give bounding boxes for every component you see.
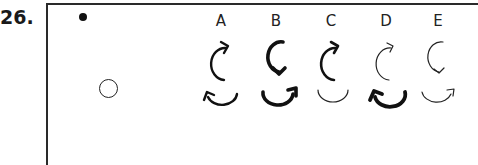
question-number: 26.: [0, 6, 34, 28]
option-a-arrows-icon[interactable]: [200, 34, 250, 114]
empty-circle-icon: [99, 79, 118, 98]
option-b-arrows-icon[interactable]: [255, 34, 305, 114]
option-c-arrows-icon[interactable]: [310, 34, 360, 114]
option-label-d[interactable]: D: [376, 12, 396, 30]
option-label-e[interactable]: E: [428, 12, 448, 30]
option-d-arrows-icon[interactable]: [365, 34, 415, 114]
option-e-arrows-icon[interactable]: [417, 34, 463, 114]
option-label-b[interactable]: B: [266, 12, 286, 30]
option-label-a[interactable]: A: [211, 12, 231, 30]
filled-dot-icon: [79, 13, 87, 21]
option-label-c[interactable]: C: [321, 12, 341, 30]
